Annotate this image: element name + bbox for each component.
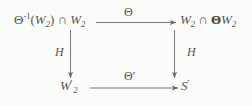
- node-tl-operator: ∩: [58, 12, 67, 27]
- node-tl-paren-close: ): [50, 12, 54, 27]
- arrow-label-bottom: Θ′: [124, 70, 135, 82]
- node-top-right: W2 ∩ ΘW2: [180, 13, 236, 26]
- node-tr-second: W: [221, 12, 232, 27]
- arrow-label-left: H: [55, 46, 64, 58]
- node-tr-second-sub: 2: [232, 19, 236, 29]
- node-tl-inner-sub: 2: [46, 19, 50, 29]
- node-tr-operator: ∩: [198, 12, 207, 27]
- node-tl-second-sub: 2: [81, 19, 85, 29]
- node-top-left: Θ-1(W2) ∩ W2: [14, 13, 85, 26]
- node-bottom-left: W′2: [60, 79, 78, 92]
- node-br-prime: ′: [187, 77, 189, 89]
- node-tl-theta: Θ: [14, 12, 23, 27]
- node-bl-sub: 2: [73, 85, 77, 95]
- node-tr-first: W: [180, 12, 191, 27]
- arrow-label-right: H: [187, 46, 196, 58]
- node-tl-exponent: -1: [23, 11, 30, 21]
- node-tr-first-sub: 2: [191, 19, 195, 29]
- commutative-diagram: Θ-1(W2) ∩ W2 W2 ∩ ΘW2 W′2 S′ Θ Θ′ H H: [0, 0, 252, 106]
- arrow-label-top: Θ: [124, 6, 133, 18]
- node-tr-theta: Θ: [211, 12, 221, 27]
- node-tl-second: W: [70, 12, 81, 27]
- node-tl-inner: W: [35, 12, 46, 27]
- node-bottom-right: S′: [181, 79, 190, 92]
